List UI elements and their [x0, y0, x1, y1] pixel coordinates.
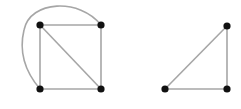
edge-e-f	[165, 26, 227, 89]
left-graph	[22, 6, 101, 89]
graph-diagram	[0, 0, 241, 109]
node-g	[223, 85, 230, 92]
right-graph	[165, 26, 227, 89]
node-d	[97, 85, 104, 92]
edge-a-d	[40, 25, 101, 89]
node-c	[36, 85, 43, 92]
node-b	[97, 21, 104, 28]
node-e	[223, 22, 230, 29]
node-a	[36, 21, 43, 28]
node-f	[161, 85, 168, 92]
